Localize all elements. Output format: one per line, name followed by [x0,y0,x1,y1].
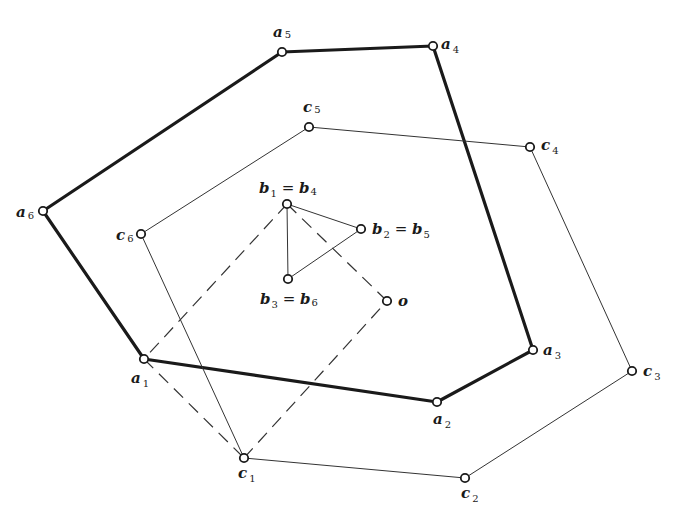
polygon-a [43,46,533,402]
vertex-b2 [357,225,365,233]
dashed-edge-a1-c1 [144,359,244,458]
label-c5: c5 [303,98,321,116]
vertex-a3 [529,346,537,354]
vertex-o [383,297,391,305]
label-c1: c1 [238,464,256,484]
vertex-a1 [140,355,148,363]
label-a3: a3 [543,341,561,361]
vertex-c6 [137,230,145,238]
vertex-c5 [305,123,313,131]
label-c2: c2 [461,484,479,504]
label-b3-b6: b3 = b6 [260,290,318,310]
label-c4: c4 [541,136,559,156]
vertex-a2 [433,398,441,406]
label-a4: a4 [441,35,459,55]
vertex-c1 [240,454,248,462]
label-a2: a2 [433,410,451,430]
polygon-diagram: a1 a2 a3 a4 a5 a6 c1 c2 c3 c4 c5 c6 b1 =… [0,0,674,516]
vertex-c3 [628,367,636,375]
label-c3: c3 [643,362,661,382]
dashed-edge-b1-o [287,204,387,301]
vertex-b1 [283,200,291,208]
vertex-c2 [461,474,469,482]
vertex-a6 [39,207,47,215]
label-b1-b4: b1 = b4 [259,179,317,199]
label-a6: a6 [16,203,34,221]
triangle-b [287,204,361,279]
label-o: o [398,292,408,310]
label-a1: a1 [131,369,149,389]
vertex-a5 [278,48,286,56]
dashed-edge-c1-o [244,301,387,458]
dashed-edge-b1-a1 [144,204,287,359]
label-c6: c6 [116,226,134,244]
vertex-b3 [284,275,292,283]
vertex-a4 [429,42,437,50]
vertex-c4 [526,143,534,151]
label-b2-b5: b2 = b5 [372,220,430,240]
dashed-parallelogram [144,204,387,458]
label-a5: a5 [273,23,291,41]
